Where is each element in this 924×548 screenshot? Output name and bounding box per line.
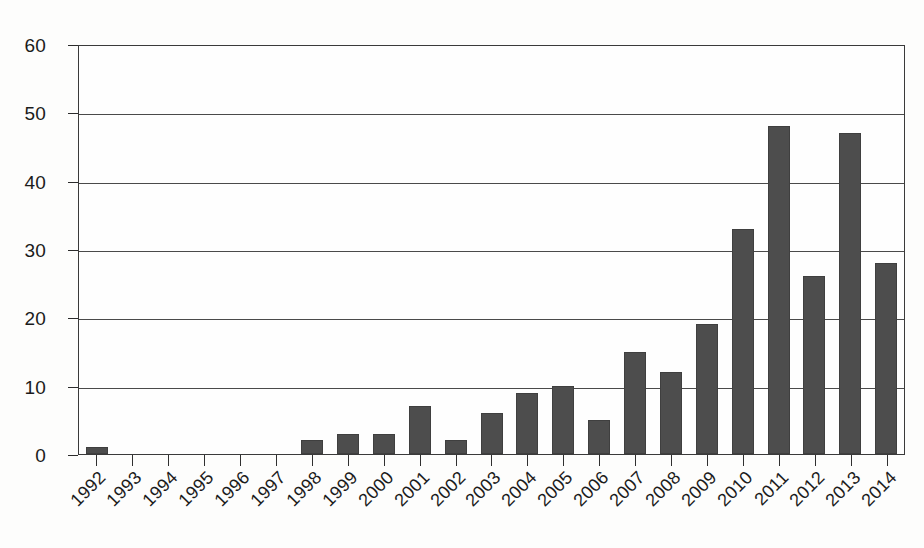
x-tick-slot bbox=[114, 455, 150, 466]
bar-slot bbox=[438, 46, 474, 454]
y-tick-label: 0 bbox=[35, 446, 46, 465]
x-tick-slot bbox=[438, 455, 474, 466]
bar-slot bbox=[474, 46, 510, 454]
y-tick-label: 60 bbox=[24, 36, 46, 55]
bar bbox=[875, 263, 897, 454]
bar bbox=[445, 440, 467, 454]
y-tick-mark bbox=[68, 45, 78, 46]
x-tick-slot bbox=[509, 455, 545, 466]
x-label-slot: 2004 bbox=[509, 466, 545, 548]
bar-slot bbox=[797, 46, 833, 454]
bar bbox=[768, 126, 790, 454]
x-tick-slot bbox=[725, 455, 761, 466]
y-tick-mark bbox=[68, 387, 78, 388]
bar bbox=[660, 372, 682, 454]
bar-slot bbox=[330, 46, 366, 454]
x-label-slot: 2011 bbox=[761, 466, 797, 548]
bar bbox=[409, 406, 431, 454]
bar bbox=[373, 434, 395, 455]
y-tick-label: 20 bbox=[24, 309, 46, 328]
x-label-slot: 2002 bbox=[438, 466, 474, 548]
x-tick-mark bbox=[491, 455, 492, 466]
x-tick-mark bbox=[132, 455, 133, 466]
x-tick-slot bbox=[294, 455, 330, 466]
bar-slot bbox=[187, 46, 223, 454]
x-tick-slot bbox=[186, 455, 222, 466]
bar bbox=[481, 413, 503, 454]
x-label-slot: 1992 bbox=[78, 466, 114, 548]
x-label-slot: 2013 bbox=[833, 466, 869, 548]
x-tick-mark bbox=[276, 455, 277, 466]
x-tick-mark bbox=[887, 455, 888, 466]
x-label-slot: 2005 bbox=[545, 466, 581, 548]
x-tick-mark bbox=[743, 455, 744, 466]
x-tick-slot bbox=[833, 455, 869, 466]
x-label-slot: 1996 bbox=[222, 466, 258, 548]
x-tick-slot bbox=[258, 455, 294, 466]
bar-slot bbox=[294, 46, 330, 454]
x-tick-slot bbox=[761, 455, 797, 466]
x-tick-slot bbox=[222, 455, 258, 466]
bar-slot bbox=[151, 46, 187, 454]
x-tick-mark bbox=[384, 455, 385, 466]
bar-slot bbox=[725, 46, 761, 454]
x-label-slot: 2001 bbox=[402, 466, 438, 548]
bar-slot bbox=[402, 46, 438, 454]
x-tick-mark bbox=[420, 455, 421, 466]
x-label-slot: 2010 bbox=[725, 466, 761, 548]
bar-slot bbox=[868, 46, 904, 454]
x-axis-ticks bbox=[78, 455, 905, 466]
x-tick-slot bbox=[473, 455, 509, 466]
y-tick-label: 30 bbox=[24, 241, 46, 260]
y-tick-label: 40 bbox=[24, 172, 46, 191]
x-axis-labels: 1992199319941995199619971998199920002001… bbox=[78, 466, 905, 548]
x-label-slot: 1994 bbox=[150, 466, 186, 548]
bar-chart: 0102030405060 19921993199419951996199719… bbox=[0, 0, 924, 548]
bar bbox=[624, 352, 646, 455]
x-label-slot: 1993 bbox=[114, 466, 150, 548]
x-tick-mark bbox=[168, 455, 169, 466]
x-tick-label: 1992 bbox=[67, 468, 109, 510]
x-tick-mark bbox=[635, 455, 636, 466]
bar-series bbox=[79, 46, 904, 454]
x-label-slot: 2007 bbox=[617, 466, 653, 548]
x-label-slot: 2014 bbox=[869, 466, 905, 548]
bar-slot bbox=[689, 46, 725, 454]
bar bbox=[337, 434, 359, 455]
bar bbox=[86, 447, 108, 454]
y-tick-mark bbox=[68, 182, 78, 183]
x-tick-slot bbox=[869, 455, 905, 466]
x-tick-slot bbox=[330, 455, 366, 466]
bar-slot bbox=[653, 46, 689, 454]
y-tick-mark bbox=[68, 250, 78, 251]
x-tick-mark bbox=[204, 455, 205, 466]
bar-slot bbox=[832, 46, 868, 454]
x-tick-mark bbox=[312, 455, 313, 466]
bar bbox=[803, 276, 825, 454]
bar bbox=[552, 386, 574, 454]
x-label-slot: 2006 bbox=[581, 466, 617, 548]
x-tick-slot bbox=[797, 455, 833, 466]
x-tick-mark bbox=[815, 455, 816, 466]
bar bbox=[516, 393, 538, 455]
x-label-slot: 1999 bbox=[330, 466, 366, 548]
x-tick-mark bbox=[527, 455, 528, 466]
y-tick-label: 10 bbox=[24, 377, 46, 396]
x-tick-mark bbox=[96, 455, 97, 466]
x-tick-slot bbox=[545, 455, 581, 466]
bar bbox=[301, 440, 323, 454]
bar-slot bbox=[761, 46, 797, 454]
x-label-slot: 1997 bbox=[258, 466, 294, 548]
x-tick-slot bbox=[402, 455, 438, 466]
bar-slot bbox=[617, 46, 653, 454]
x-tick-mark bbox=[456, 455, 457, 466]
x-label-slot: 2008 bbox=[653, 466, 689, 548]
x-tick-mark bbox=[599, 455, 600, 466]
x-label-slot: 2003 bbox=[473, 466, 509, 548]
bar bbox=[696, 324, 718, 454]
y-tick-mark bbox=[68, 113, 78, 114]
bar-slot bbox=[581, 46, 617, 454]
bar-slot bbox=[79, 46, 115, 454]
x-tick-slot bbox=[617, 455, 653, 466]
x-tick-slot bbox=[78, 455, 114, 466]
